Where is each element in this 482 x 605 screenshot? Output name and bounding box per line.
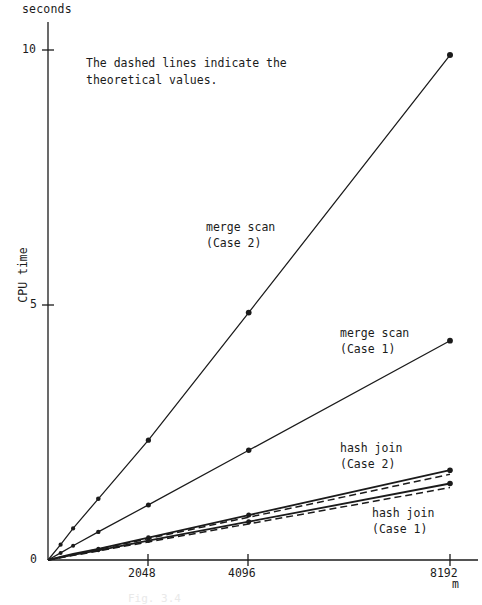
series-label-merge-scan-case-2: merge scan(Case 2) [206,219,275,251]
y-axis-unit-label: seconds [22,2,72,16]
series-label-merge-scan-case-1: merge scan(Case 1) [340,325,409,357]
y-axis-title: CPU time [16,235,30,315]
series-label-line-1: merge scan [340,326,409,340]
y-tick-label-10: 10 [22,42,36,56]
y-tick-label-0: 0 [30,552,37,566]
chart-note-line-2: theoretical values. [86,73,218,87]
y-tick-label-5: 5 [30,297,37,311]
series-label-line-1: merge scan [206,220,275,234]
series-label-line-1: hash join [340,441,402,455]
chart-note-line-1: The dashed lines indicate the [86,56,287,70]
x-tick-label-8192: 8192 [430,566,458,580]
series-label-line-2: (Case 1) [372,522,427,536]
series-label-hash-join-case-2: hash join(Case 2) [340,440,402,472]
figure-caption: Fig. 3.4 [128,592,181,605]
series-label-line-2: (Case 2) [206,236,261,250]
series-label-line-2: (Case 1) [340,342,395,356]
series-label-line-2: (Case 2) [340,457,395,471]
x-tick-label-2048: 2048 [128,566,156,580]
series-label-line-1: hash join [372,506,434,520]
series-label-hash-join-case-1: hash join(Case 1) [372,505,434,537]
x-tick-label-4096: 4096 [228,566,256,580]
chart-note: The dashed lines indicate thetheoretical… [86,55,287,89]
